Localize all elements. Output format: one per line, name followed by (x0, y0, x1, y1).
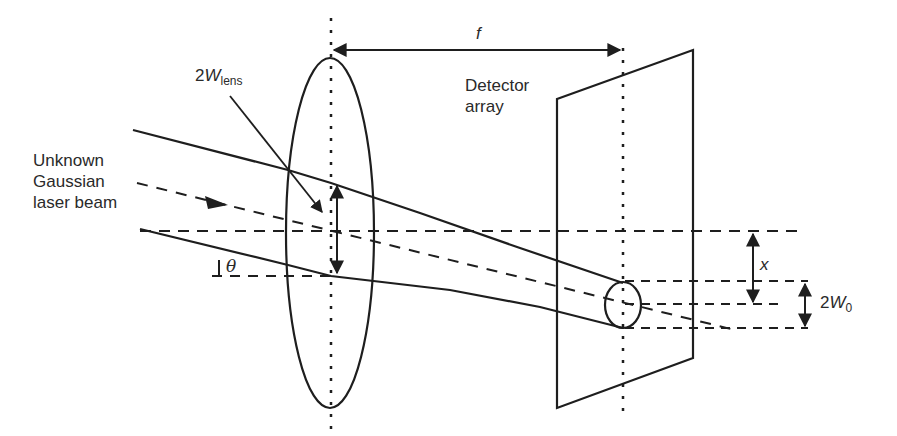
detector-array (557, 50, 693, 408)
beam-envelope-bottom (140, 229, 623, 328)
lens-width-label: 2Wlens (195, 65, 243, 92)
offset-label: x (760, 254, 769, 275)
beam-label-line1: Unknown (33, 150, 117, 171)
focal-length-label: f (476, 23, 481, 44)
optics-diagram (0, 0, 897, 436)
waist-label: 2W0 (820, 292, 852, 319)
beam-direction-arrowhead (205, 196, 228, 209)
beam-envelope-top (133, 130, 623, 283)
theta-label: θ (226, 256, 236, 277)
detector-label-line2: array (465, 96, 529, 117)
detector-label: Detector array (465, 75, 529, 117)
beam-label: Unknown Gaussian laser beam (33, 150, 117, 213)
beam-label-line3: laser beam (33, 192, 117, 213)
detector-label-line1: Detector (465, 75, 529, 96)
beam-label-line2: Gaussian (33, 171, 117, 192)
lens-width-leader (230, 96, 322, 212)
